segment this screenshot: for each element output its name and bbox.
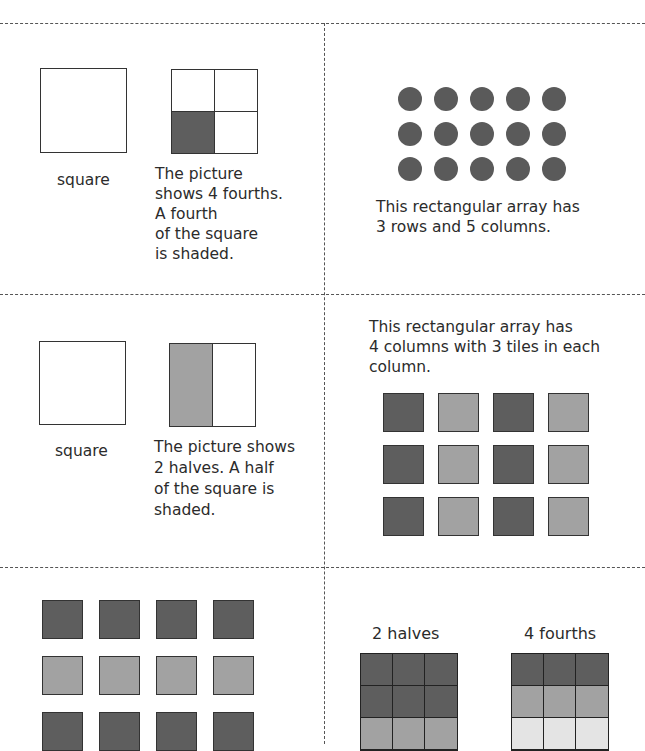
tile-dark bbox=[383, 497, 424, 536]
tile-dark bbox=[156, 600, 197, 639]
tile-mid bbox=[99, 656, 140, 695]
grid-cell-dark bbox=[544, 654, 576, 686]
grid-cell-dark bbox=[425, 686, 457, 718]
tile-array bbox=[383, 393, 593, 538]
dot bbox=[398, 122, 422, 146]
halves-square bbox=[169, 343, 256, 427]
tile-dark bbox=[213, 712, 254, 751]
dot bbox=[470, 87, 494, 111]
grid-cell-light bbox=[544, 718, 576, 750]
tile-dark bbox=[156, 712, 197, 751]
grid-cell-mid bbox=[544, 686, 576, 718]
dot bbox=[398, 87, 422, 111]
dot bbox=[398, 157, 422, 181]
dot-array bbox=[398, 87, 578, 182]
tile-dark bbox=[493, 393, 534, 432]
tile-dark bbox=[213, 600, 254, 639]
quadrant-top-right bbox=[215, 70, 258, 112]
tile-mid bbox=[213, 656, 254, 695]
tile-mid bbox=[548, 497, 589, 536]
square-label: square bbox=[55, 441, 108, 461]
tile-mid bbox=[42, 656, 83, 695]
fourths-description: The picture shows 4 fourths. A fourth of… bbox=[155, 164, 283, 264]
grid-cell-dark bbox=[576, 654, 608, 686]
grid-cell-mid bbox=[512, 686, 544, 718]
dot bbox=[470, 122, 494, 146]
grid-cell-dark bbox=[393, 654, 425, 686]
grid-cell-light bbox=[512, 718, 544, 750]
quadrant-bottom-left-shaded bbox=[172, 112, 215, 154]
dot bbox=[506, 122, 530, 146]
grid-cell-dark bbox=[361, 654, 393, 686]
half-left-shaded bbox=[170, 344, 213, 426]
dot bbox=[434, 122, 458, 146]
grid-cell-mid bbox=[361, 718, 393, 750]
quadrant-top-left bbox=[172, 70, 215, 112]
plain-square bbox=[40, 68, 127, 153]
grid-cell-mid bbox=[576, 686, 608, 718]
tile-mid bbox=[438, 445, 479, 484]
dot bbox=[506, 157, 530, 181]
tile-dark bbox=[493, 497, 534, 536]
half-right bbox=[213, 344, 255, 426]
fourths-square bbox=[171, 69, 258, 154]
dot bbox=[470, 157, 494, 181]
plain-square bbox=[39, 341, 126, 425]
cut-line-lower bbox=[0, 567, 645, 568]
grid-cell-light bbox=[576, 718, 608, 750]
grid-cell-dark bbox=[393, 686, 425, 718]
dot-array-description: This rectangular array has 3 rows and 5 … bbox=[376, 197, 580, 237]
dot bbox=[542, 87, 566, 111]
halves-label: 2 halves bbox=[372, 624, 439, 644]
tile-dark bbox=[99, 600, 140, 639]
dot bbox=[506, 87, 530, 111]
halves-grid bbox=[360, 653, 458, 751]
fourths-grid bbox=[511, 653, 609, 751]
tile-dark bbox=[383, 445, 424, 484]
tile-dark bbox=[383, 393, 424, 432]
square-label: square bbox=[57, 170, 110, 190]
quadrant-bottom-right bbox=[215, 112, 258, 154]
tile-array-description: This rectangular array has 4 columns wit… bbox=[369, 317, 600, 377]
fourths-label: 4 fourths bbox=[524, 624, 596, 644]
tile-dark bbox=[99, 712, 140, 751]
grid-cell-dark bbox=[512, 654, 544, 686]
tile-dark bbox=[493, 445, 534, 484]
dot bbox=[542, 157, 566, 181]
tile-dark bbox=[42, 600, 83, 639]
grid-cell-mid bbox=[425, 718, 457, 750]
tile-mid bbox=[548, 445, 589, 484]
dot bbox=[434, 157, 458, 181]
grid-cell-dark bbox=[425, 654, 457, 686]
tile-mid bbox=[438, 497, 479, 536]
dot bbox=[542, 122, 566, 146]
cut-line-vertical bbox=[324, 23, 325, 744]
tile-mid bbox=[156, 656, 197, 695]
dot bbox=[434, 87, 458, 111]
tile-mid bbox=[438, 393, 479, 432]
cut-line-middle bbox=[0, 294, 645, 295]
tile-mid bbox=[548, 393, 589, 432]
grid-cell-dark bbox=[361, 686, 393, 718]
tile-array bbox=[42, 600, 262, 744]
cut-line-top bbox=[0, 23, 645, 24]
halves-description: The picture shows 2 halves. A half of th… bbox=[154, 437, 295, 521]
grid-cell-mid bbox=[393, 718, 425, 750]
tile-dark bbox=[42, 712, 83, 751]
